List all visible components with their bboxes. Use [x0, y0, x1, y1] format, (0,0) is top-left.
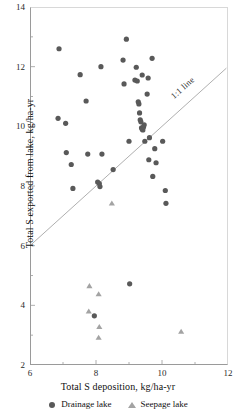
data-point	[142, 139, 147, 144]
data-point	[86, 308, 92, 313]
data-point	[137, 110, 142, 115]
legend-item-drainage-lake: Drainage lake	[48, 399, 111, 409]
data-point	[146, 157, 151, 162]
data-point	[85, 151, 90, 156]
plot-area	[30, 7, 228, 365]
y-tick-label: 2	[0, 361, 25, 370]
data-point	[146, 75, 151, 80]
data-point	[98, 64, 103, 69]
data-point	[97, 184, 102, 189]
data-point	[124, 37, 129, 42]
y-tick-label: 12	[0, 62, 25, 71]
data-point	[92, 313, 97, 318]
data-point	[121, 81, 126, 86]
circle-marker-icon	[48, 400, 57, 409]
y-tick-label: 8	[0, 182, 25, 191]
data-point	[109, 200, 115, 205]
data-point	[120, 58, 125, 63]
data-point	[150, 174, 155, 179]
x-tick-label: 12	[224, 369, 233, 378]
triangle-marker-icon	[128, 400, 137, 409]
data-point	[78, 72, 83, 77]
data-point	[86, 283, 92, 288]
data-point	[99, 151, 104, 156]
x-tick-label: 10	[158, 369, 167, 378]
data-point	[55, 116, 60, 121]
y-tick-label: 10	[0, 122, 25, 131]
x-tick-label: 6	[28, 369, 33, 378]
legend-item-seepage-lake: Seepage lake	[128, 399, 188, 409]
data-point	[134, 65, 139, 70]
data-point	[178, 329, 184, 334]
data-point	[160, 139, 165, 144]
data-point	[142, 122, 147, 127]
data-point	[96, 291, 102, 296]
data-point	[136, 101, 141, 106]
y-tick-label: 4	[0, 301, 25, 310]
data-point	[135, 78, 140, 83]
data-point	[126, 139, 131, 144]
legend-label-drainage-lake: Drainage lake	[61, 399, 111, 409]
data-point	[56, 46, 61, 51]
data-point	[150, 56, 155, 61]
data-point	[69, 162, 74, 167]
series-seepage-lake	[86, 200, 185, 339]
x-axis-title: Total S deposition, kg/ha-yr	[0, 381, 236, 392]
data-point	[84, 98, 89, 103]
data-point	[145, 92, 150, 97]
x-tick-label: 8	[94, 369, 99, 378]
data-point	[163, 188, 168, 193]
data-point	[96, 335, 102, 340]
data-point	[70, 186, 75, 191]
data-point	[163, 201, 168, 206]
data-point	[96, 324, 102, 329]
data-layer	[30, 7, 228, 365]
data-point	[63, 121, 68, 126]
data-point	[127, 281, 132, 286]
y-axis-title: Total S exported from lake, kg/ha-yr	[24, 69, 35, 279]
legend-label-seepage-lake: Seepage lake	[141, 399, 188, 409]
scatter-plot-figure: 2468101214 681012 1:1 line Total S depos…	[0, 0, 236, 410]
data-point	[140, 72, 145, 77]
data-point	[152, 146, 157, 151]
series-drainage-lake	[55, 37, 168, 319]
data-point	[147, 135, 152, 140]
y-tick-label: 6	[0, 241, 25, 250]
chart-legend: Drainage lake Seepage lake	[0, 399, 236, 409]
y-tick-label: 14	[0, 3, 25, 12]
data-point	[111, 167, 116, 172]
data-point	[64, 150, 69, 155]
data-point	[153, 160, 158, 165]
